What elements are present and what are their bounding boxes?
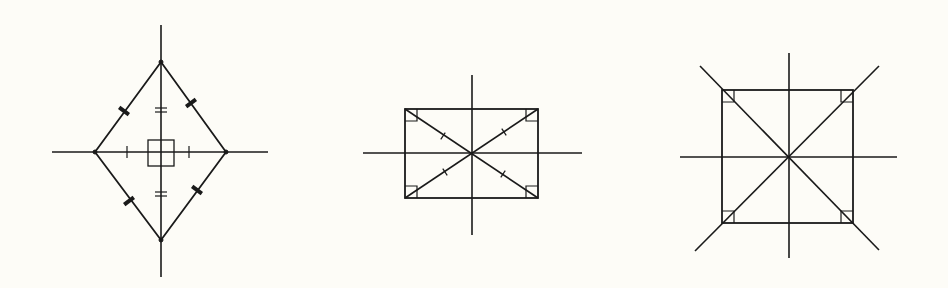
equal-side-tick xyxy=(186,99,196,106)
rhombus-figure xyxy=(52,25,268,277)
rectangle-figure xyxy=(363,75,582,235)
right-angle-marker xyxy=(841,90,853,102)
vertex-dot xyxy=(93,150,97,154)
vertex-dot xyxy=(159,60,163,64)
square-figure xyxy=(680,53,897,258)
vertex-dot xyxy=(224,150,228,154)
vertex-dot xyxy=(159,238,163,242)
quadrilateral-symmetry-diagram xyxy=(0,0,948,288)
